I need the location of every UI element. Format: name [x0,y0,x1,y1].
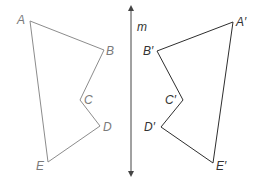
vertex-label-A: A [16,13,25,27]
vertex-label-B-prime: B′ [143,44,154,58]
vertex-label-D: D [103,120,112,134]
vertex-label-A-prime: A′ [235,15,247,29]
vertex-label-B: B [106,44,114,58]
line-label-m: m [137,20,147,34]
preimage-polygon-ABCDE [30,21,104,162]
vertex-label-D-prime: D′ [144,120,156,134]
vertex-label-C-prime: C′ [165,93,177,107]
vertex-label-E-prime: E′ [216,159,227,173]
reflection-diagram: m A B C D E A′ B′ C′ D′ E′ [0,0,258,181]
vertex-label-C: C [84,93,93,107]
vertex-label-E: E [36,159,45,173]
